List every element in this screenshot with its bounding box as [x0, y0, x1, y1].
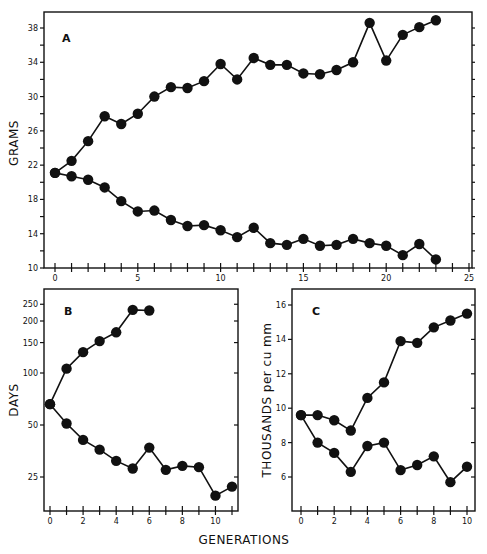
data-point-marker: [379, 377, 389, 387]
y-axis-title: DAYS: [7, 383, 21, 416]
data-point-marker: [133, 109, 143, 119]
data-point-marker: [182, 221, 192, 231]
data-point-marker: [431, 254, 441, 264]
data-point-marker: [346, 467, 356, 477]
data-point-marker: [429, 322, 439, 332]
data-point-marker: [362, 393, 372, 403]
data-point-marker: [116, 196, 126, 206]
y-tick-label: 6: [281, 473, 286, 482]
y-tick-label: 16: [276, 301, 286, 310]
data-point-marker: [194, 462, 204, 472]
x-tick-label: 4: [365, 517, 370, 526]
data-point-marker: [282, 60, 292, 70]
data-point-marker: [362, 441, 372, 451]
data-point-marker: [78, 347, 88, 357]
data-point-marker: [83, 175, 93, 185]
y-tick-label: 50: [28, 421, 38, 430]
data-point-marker: [445, 315, 455, 325]
y-axis-title: THOUSANDS per cu mm: [260, 323, 274, 479]
data-point-marker: [66, 156, 76, 166]
data-point-marker: [312, 410, 322, 420]
x-tick-label: 6: [398, 517, 403, 526]
x-tick-label: 2: [81, 517, 86, 526]
data-point-marker: [166, 215, 176, 225]
data-point-marker: [182, 83, 192, 93]
data-point-marker: [66, 171, 76, 181]
y-tick-label: 14: [276, 335, 286, 344]
series-line-lower: [301, 415, 467, 482]
data-point-marker: [315, 241, 325, 251]
data-point-marker: [282, 240, 292, 250]
data-point-marker: [379, 437, 389, 447]
data-point-marker: [232, 74, 242, 84]
data-point-marker: [346, 425, 356, 435]
data-point-marker: [414, 22, 424, 32]
data-point-marker: [249, 53, 259, 63]
data-point-marker: [94, 444, 104, 454]
x-tick-label: 20: [381, 274, 391, 283]
data-point-marker: [445, 477, 455, 487]
x-tick-label: 15: [298, 274, 308, 283]
data-point-marker: [232, 232, 242, 242]
data-point-marker: [462, 308, 472, 318]
data-point-marker: [149, 91, 159, 101]
x-tick-label: 0: [47, 517, 52, 526]
y-tick-label: 38: [28, 24, 38, 33]
panel-letter: C: [312, 305, 320, 318]
data-point-marker: [128, 463, 138, 473]
data-point-marker: [215, 59, 225, 69]
data-point-marker: [398, 30, 408, 40]
data-point-marker: [364, 238, 374, 248]
data-point-marker: [111, 456, 121, 466]
data-point-marker: [83, 136, 93, 146]
figure: 05101520251014182226303438AGRAMS 0246810…: [0, 0, 487, 554]
panel-c-chart: 02468106810121416CTHOUSANDS per cu mm: [260, 289, 475, 526]
data-point-marker: [381, 55, 391, 65]
data-point-marker: [199, 76, 209, 86]
data-point-marker: [429, 451, 439, 461]
data-point-marker: [315, 69, 325, 79]
x-tick-label: 5: [135, 274, 140, 283]
data-point-marker: [210, 490, 220, 500]
data-point-marker: [161, 465, 171, 475]
data-point-marker: [166, 82, 176, 92]
data-point-marker: [61, 418, 71, 428]
data-point-marker: [78, 435, 88, 445]
data-point-marker: [298, 68, 308, 78]
data-point-marker: [227, 481, 237, 491]
series-line-upper: [50, 310, 149, 404]
series-line-lower: [50, 404, 232, 495]
data-point-marker: [45, 399, 55, 409]
x-tick-label: 10: [210, 517, 220, 526]
data-point-marker: [116, 119, 126, 129]
data-point-marker: [94, 336, 104, 346]
data-point-marker: [199, 220, 209, 230]
y-tick-label: 150: [23, 339, 38, 348]
panel-b-chart: 02468102550100150200250BDAYS: [7, 289, 238, 526]
series-line-upper: [55, 20, 436, 173]
data-point-marker: [462, 461, 472, 471]
x-tick-label: 8: [431, 517, 436, 526]
data-point-marker: [329, 448, 339, 458]
x-tick-label: 6: [147, 517, 152, 526]
series-line-lower: [55, 173, 436, 260]
y-tick-label: 100: [23, 369, 38, 378]
y-tick-label: 12: [276, 370, 286, 379]
data-point-marker: [296, 410, 306, 420]
data-point-marker: [111, 327, 121, 337]
data-point-marker: [412, 338, 422, 348]
x-tick-label: 2: [332, 517, 337, 526]
data-point-marker: [61, 363, 71, 373]
y-tick-label: 25: [28, 473, 38, 482]
data-point-marker: [149, 205, 159, 215]
data-point-marker: [431, 15, 441, 25]
data-point-marker: [331, 65, 341, 75]
x-tick-label: 0: [298, 517, 303, 526]
data-point-marker: [398, 250, 408, 260]
series-line-upper: [301, 314, 467, 431]
y-tick-label: 26: [28, 127, 38, 136]
data-point-marker: [144, 305, 154, 315]
data-point-marker: [364, 18, 374, 28]
data-point-marker: [312, 437, 322, 447]
y-tick-label: 18: [28, 195, 38, 204]
